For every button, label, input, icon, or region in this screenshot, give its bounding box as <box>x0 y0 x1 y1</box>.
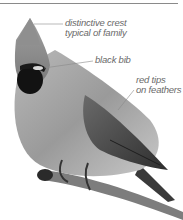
label-crest-line2: typical of family <box>65 28 127 38</box>
label-red-tips: red tips on feathers <box>136 75 181 95</box>
label-crest: distinctive crest typical of family <box>65 18 127 38</box>
label-bib: black bib <box>95 55 131 65</box>
label-bib-line1: black bib <box>95 55 131 65</box>
label-tips-line2: on feathers <box>136 85 181 95</box>
